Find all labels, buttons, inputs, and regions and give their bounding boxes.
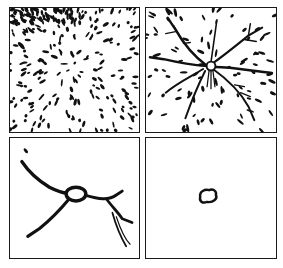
scattered-particles-illustration <box>10 8 139 132</box>
panel-scattered-particles <box>9 7 140 133</box>
panel-single-ring <box>145 137 277 259</box>
single-ring-illustration <box>146 138 276 258</box>
panel-few-strands <box>9 137 140 259</box>
few-strands-illustration <box>10 138 139 258</box>
panel-radiating-network <box>145 7 277 133</box>
figure-caption <box>20 0 270 3</box>
radiating-network-illustration <box>146 8 276 132</box>
